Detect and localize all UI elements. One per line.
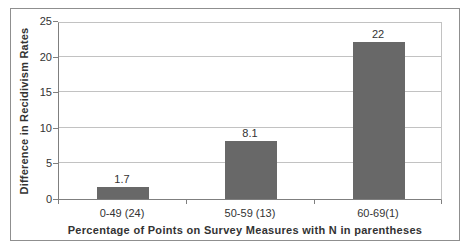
y-tick-mark-5 <box>53 163 58 164</box>
y-tick-label-10: 10 <box>26 121 52 135</box>
x-tick-mark-0 <box>58 200 59 204</box>
x-category-label-60-69(1): 60-69(1) <box>314 206 442 220</box>
x-category-label-0-49 (24): 0-49 (24) <box>58 206 186 220</box>
bar-50-59 (13) <box>225 141 277 199</box>
y-axis-title: Difference in Recidivism Rates <box>18 21 32 201</box>
y-tick-label-5: 5 <box>26 156 52 170</box>
x-tick-mark-3 <box>441 200 442 204</box>
x-axis-title: Percentage of Points on Survey Measures … <box>30 224 460 236</box>
y-tick-label-15: 15 <box>26 85 52 99</box>
x-category-label-50-59 (13): 50-59 (13) <box>186 206 314 220</box>
bar-0-49 (24) <box>97 187 149 199</box>
bar-value-label-0-49 (24): 1.7 <box>92 172 152 186</box>
bar-60-69(1) <box>353 42 405 199</box>
chart-stage: Difference in Recidivism Rates Percentag… <box>0 0 470 251</box>
y-tick-label-0: 0 <box>26 192 52 206</box>
x-tick-mark-2 <box>314 200 315 204</box>
x-tick-mark-1 <box>186 200 187 204</box>
bar-value-label-60-69(1): 22 <box>348 27 408 41</box>
y-tick-label-25: 25 <box>26 14 52 28</box>
y-tick-label-20: 20 <box>26 50 52 64</box>
y-tick-mark-20 <box>53 57 58 58</box>
bar-value-label-50-59 (13): 8.1 <box>220 126 280 140</box>
y-tick-mark-10 <box>53 128 58 129</box>
y-tick-mark-25 <box>53 21 58 22</box>
y-tick-mark-15 <box>53 92 58 93</box>
